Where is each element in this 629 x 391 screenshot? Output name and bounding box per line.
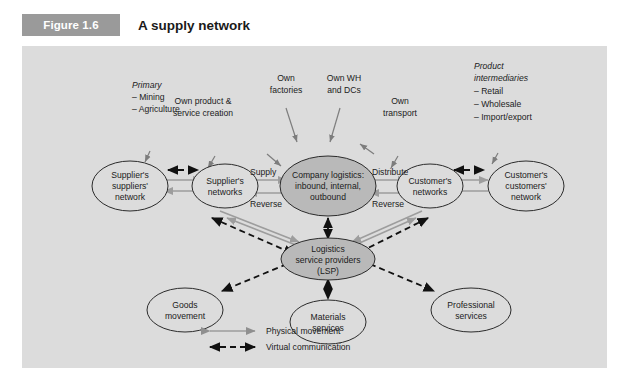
annotation-item: – Mining: [132, 92, 165, 102]
annotation-product-intermediaries: Product intermediaries – Retail – Wholes…: [474, 61, 532, 122]
node-label: movement: [165, 311, 206, 321]
legend-label: Virtual communication: [266, 342, 351, 352]
supply-network-diagram: Supplier's suppliers' network Supplier's…: [22, 46, 607, 368]
node-label: (LSP): [317, 266, 339, 276]
node-label: Customer's: [504, 170, 547, 180]
node-goods-movement[interactable]: Goods movement: [147, 288, 223, 332]
figure-number-badge: Figure 1.6: [22, 14, 120, 36]
annotation-own-factories: Own factories: [270, 73, 302, 95]
figure-title: A supply network: [138, 14, 250, 36]
annotation-item: – Import/export: [474, 112, 532, 122]
edge-label-distribute: Distribute: [372, 167, 409, 177]
annotation-line: transport: [383, 108, 418, 118]
node-label: Supplier's: [206, 176, 243, 186]
node-label: Goods: [172, 300, 197, 310]
annotation-item: – Retail: [474, 86, 503, 96]
node-suppliers-networks[interactable]: Supplier's networks: [192, 164, 258, 208]
diagram-panel: Supplier's suppliers' network Supplier's…: [22, 46, 607, 368]
annotation-heading: Product: [474, 61, 504, 71]
annotation-line: service creation: [173, 108, 233, 118]
node-label: customers': [505, 181, 547, 191]
node-customers-customers-network[interactable]: Customer's customers' network: [488, 161, 564, 211]
node-suppliers-suppliers-network[interactable]: Supplier's suppliers' network: [92, 161, 168, 211]
legend-item-virtual-communication: Virtual communication: [210, 342, 351, 352]
node-label: Professional: [447, 300, 494, 310]
annotation-heading: intermediaries: [474, 73, 529, 83]
node-label: outbound: [310, 192, 346, 202]
node-label: Supplier's: [111, 170, 148, 180]
annotation-line: Own: [277, 73, 295, 83]
figure-page: Figure 1.6 A supply network: [0, 0, 629, 391]
edge-label-reverse-right: Reverse: [372, 199, 404, 209]
edge-label-supply: Supply: [250, 167, 277, 177]
annotation-line: and DCs: [327, 85, 360, 95]
node-label: services: [455, 311, 487, 321]
annotation-item: – Wholesale: [474, 99, 522, 109]
node-logistics-service-providers[interactable]: Logistics service providers (LSP): [281, 238, 375, 280]
node-label: Customer's: [408, 176, 451, 186]
node-label: network: [511, 192, 542, 202]
annotation-line: Own product &: [175, 96, 232, 106]
node-materials-services[interactable]: Materials services: [290, 300, 366, 344]
node-label: networks: [208, 187, 242, 197]
node-professional-services[interactable]: Professional services: [431, 288, 511, 332]
node-company-logistics[interactable]: Company logistics: inbound, internal, ou…: [280, 156, 376, 216]
annotation-line: Own WH: [327, 73, 361, 83]
annotation-line: factories: [270, 85, 302, 95]
annotation-heading: Primary: [132, 80, 162, 90]
annotation-own-transport: Own transport: [383, 96, 418, 118]
legend-item-physical-movement: Physical movement: [210, 326, 341, 336]
annotation-own-product-service-creation: Own product & service creation: [173, 96, 233, 118]
node-label: service providers: [296, 255, 361, 265]
node-label: Logistics: [311, 244, 344, 254]
node-label: Company logistics:: [292, 170, 364, 180]
node-label: Materials: [311, 312, 346, 322]
legend-label: Physical movement: [266, 326, 341, 336]
node-label: suppliers': [112, 181, 148, 191]
node-label: inbound, internal,: [295, 181, 361, 191]
annotation-line: Own: [391, 96, 409, 106]
annotation-own-wh-and-dcs: Own WH and DCs: [327, 73, 361, 95]
figure-header: Figure 1.6 A supply network: [22, 14, 607, 40]
node-label: networks: [413, 187, 447, 197]
node-label: network: [115, 192, 146, 202]
edge-label-reverse-left: Reverse: [250, 199, 282, 209]
